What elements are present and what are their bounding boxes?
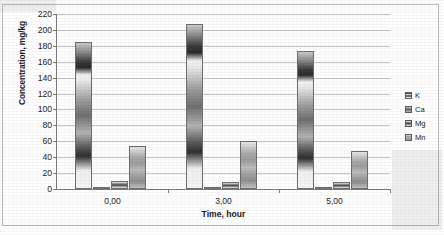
bar-ca xyxy=(93,187,110,189)
bar-group xyxy=(168,14,279,189)
bar-mg xyxy=(222,182,239,189)
bar-mg xyxy=(111,181,128,189)
y-tick-label: 120 xyxy=(38,89,52,99)
legend-item-mg[interactable]: Mg xyxy=(405,116,441,130)
legend-item-mn[interactable]: Mn xyxy=(405,130,441,144)
x-axis-line xyxy=(56,189,391,190)
y-axis-title: Concentration, mg/kg xyxy=(17,0,27,133)
bar-k xyxy=(297,51,314,189)
bar-k xyxy=(75,42,92,189)
y-tick-label: 0 xyxy=(47,184,52,194)
y-tick-label: 40 xyxy=(42,152,52,162)
y-tick-mark xyxy=(53,189,57,190)
legend-item-k[interactable]: K xyxy=(405,88,441,102)
legend-label: Mn xyxy=(415,133,426,142)
category-separator xyxy=(168,189,169,193)
bar-chart: Concentration, mg/kg 0204060801001201401… xyxy=(0,0,444,235)
category-separator xyxy=(390,189,391,193)
bar-k xyxy=(186,24,203,189)
y-tick-label: 80 xyxy=(42,120,52,130)
plot-area: 020406080100120140160180200220 xyxy=(57,14,390,189)
x-tick-label: 5,00 xyxy=(326,196,343,206)
y-tick-label: 100 xyxy=(38,104,52,114)
legend-label: Ca xyxy=(415,105,425,114)
y-tick-label: 140 xyxy=(38,73,52,83)
legend-label: K xyxy=(415,91,420,100)
y-tick-label: 180 xyxy=(38,41,52,51)
y-tick-label: 20 xyxy=(42,168,52,178)
bar-ca xyxy=(315,187,332,189)
chart-legend: KCaMgMn xyxy=(405,88,441,144)
y-tick-label: 200 xyxy=(38,25,52,35)
legend-swatch-icon xyxy=(405,120,412,127)
y-tick-label: 60 xyxy=(42,136,52,146)
legend-item-ca[interactable]: Ca xyxy=(405,102,441,116)
x-tick-label: 0,00 xyxy=(104,196,121,206)
y-tick-label: 220 xyxy=(38,9,52,19)
legend-swatch-icon xyxy=(405,92,412,99)
bar-ca xyxy=(204,187,221,189)
bar-mn xyxy=(129,146,146,189)
bar-group xyxy=(279,14,390,189)
legend-swatch-icon xyxy=(405,134,412,141)
legend-label: Mg xyxy=(415,119,426,128)
x-axis-title: Time, hour xyxy=(57,209,390,219)
bar-mg xyxy=(333,182,350,189)
x-tick-label: 3,00 xyxy=(215,196,232,206)
bar-mn xyxy=(240,141,257,189)
category-separator xyxy=(279,189,280,193)
bar-mn xyxy=(351,151,368,189)
legend-swatch-icon xyxy=(405,106,412,113)
y-tick-label: 160 xyxy=(38,57,52,67)
bar-group xyxy=(57,14,168,189)
